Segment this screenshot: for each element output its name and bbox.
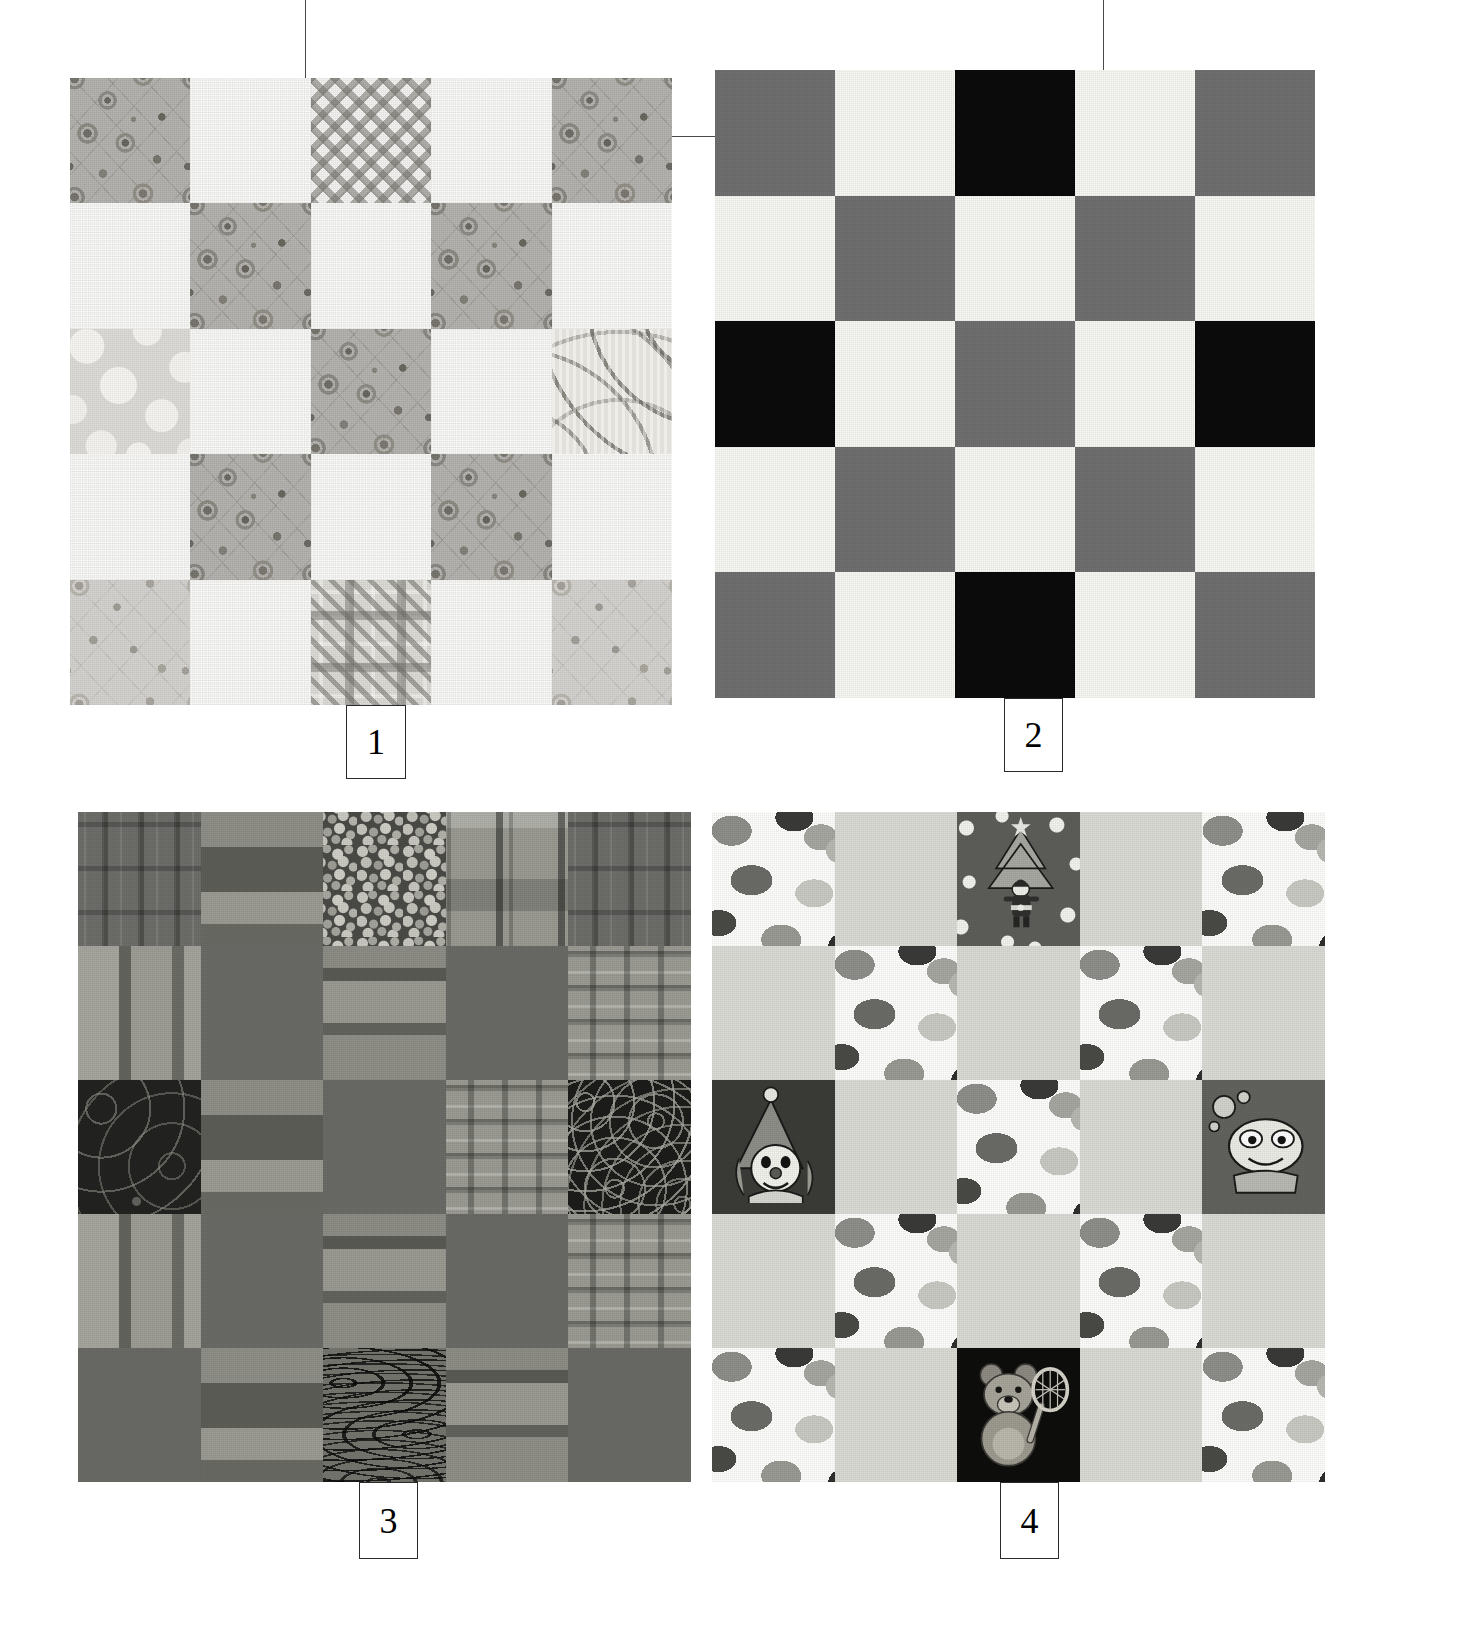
patch: [712, 1214, 835, 1348]
patch: [1075, 196, 1195, 322]
patch: [1195, 447, 1315, 573]
patch: [1195, 70, 1315, 196]
leader-line-block-1-top: [305, 0, 306, 78]
teddy-bear-icon: [957, 1348, 1080, 1471]
patch: [70, 203, 190, 328]
patch: [835, 447, 955, 573]
patch: [78, 812, 201, 946]
callout-box-3: 3: [359, 1482, 418, 1559]
patch: [446, 1214, 569, 1348]
patch: [1080, 946, 1203, 1080]
quilt-block-3: [78, 812, 691, 1482]
callout-label: 2: [1025, 717, 1043, 753]
patch: [568, 1080, 691, 1214]
patch: [190, 203, 310, 328]
patch: [70, 78, 190, 203]
patch: [1080, 1214, 1203, 1348]
patch: [835, 70, 955, 196]
patch: [955, 572, 1075, 698]
patch: [835, 321, 955, 447]
patch: [715, 196, 835, 322]
callout-label: 4: [1021, 1503, 1039, 1539]
callout-box-4: 4: [1000, 1482, 1059, 1559]
patch: [1075, 447, 1195, 573]
patch: [78, 946, 201, 1080]
patch: [957, 1214, 1080, 1348]
patch: [323, 1214, 446, 1348]
patch: [190, 78, 310, 203]
patch: [712, 812, 835, 946]
patch: [201, 1348, 324, 1482]
patch: [955, 70, 1075, 196]
patch: [311, 78, 431, 203]
patch: [568, 1348, 691, 1482]
patch: [431, 580, 551, 705]
patch: [201, 812, 324, 946]
patch: [1202, 812, 1325, 946]
patch: [190, 454, 310, 579]
patch: [568, 1214, 691, 1348]
patch: [311, 580, 431, 705]
alien-icon: [1202, 1080, 1325, 1203]
patch: [201, 946, 324, 1080]
patch: [957, 1348, 1080, 1482]
patch: [835, 572, 955, 698]
patch: [552, 329, 672, 454]
quilt-block-4: [712, 812, 1325, 1482]
patch: [715, 572, 835, 698]
patch: [431, 203, 551, 328]
patch: [1195, 321, 1315, 447]
patch: [715, 70, 835, 196]
santa-tree-icon: [957, 812, 1080, 935]
patch: [446, 1348, 569, 1482]
patch: [201, 1080, 324, 1214]
patch: [955, 196, 1075, 322]
patch: [1075, 321, 1195, 447]
patch: [552, 78, 672, 203]
patch: [715, 447, 835, 573]
callout-label: 3: [380, 1503, 398, 1539]
patch: [446, 1080, 569, 1214]
patch: [1202, 1348, 1325, 1482]
patch: [835, 1214, 958, 1348]
patch: [712, 946, 835, 1080]
patch: [323, 812, 446, 946]
patch: [1080, 1080, 1203, 1214]
patch: [1202, 946, 1325, 1080]
patch: [323, 1080, 446, 1214]
callout-label: 1: [367, 724, 385, 760]
patch: [835, 196, 955, 322]
patch: [311, 454, 431, 579]
quilt-block-1: [70, 78, 672, 705]
patch: [323, 1348, 446, 1482]
patch: [311, 329, 431, 454]
patch: [568, 946, 691, 1080]
figure-canvas: 1 2 3 4: [0, 0, 1461, 1652]
callout-box-1: 1: [346, 705, 406, 779]
patch: [78, 1080, 201, 1214]
patch: [552, 203, 672, 328]
patch: [431, 454, 551, 579]
patch: [70, 580, 190, 705]
patch: [70, 329, 190, 454]
patch: [1195, 572, 1315, 698]
patch: [955, 447, 1075, 573]
patch: [712, 1348, 835, 1482]
callout-box-2: 2: [1004, 698, 1063, 772]
patch: [1080, 1348, 1203, 1482]
quilt-block-2: [715, 70, 1315, 698]
patch: [311, 203, 431, 328]
patch: [1075, 572, 1195, 698]
patch: [446, 812, 569, 946]
clown-icon: [712, 1080, 835, 1203]
patch: [78, 1214, 201, 1348]
patch: [446, 946, 569, 1080]
patch: [552, 580, 672, 705]
patch: [431, 78, 551, 203]
patch: [957, 812, 1080, 946]
patch: [70, 454, 190, 579]
patch: [1080, 812, 1203, 946]
patch: [955, 321, 1075, 447]
patch: [1195, 196, 1315, 322]
leader-line-block-2-left: [672, 136, 715, 137]
